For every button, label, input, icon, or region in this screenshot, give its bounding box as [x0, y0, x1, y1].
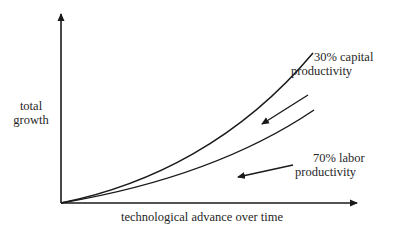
capital-label-line1: 30% capital	[291, 50, 373, 64]
labor-pointer-arrow	[238, 165, 293, 177]
labor-label-line2: productivity	[295, 165, 365, 179]
capital-productivity-label: 30% capital productivity	[291, 50, 373, 78]
labor-productivity-label: 70% labor productivity	[295, 151, 365, 179]
labor-label-line1: 70% labor	[295, 151, 365, 165]
x-axis-label: technological advance over time	[121, 210, 283, 224]
growth-diagram: total growth technological advance over …	[0, 0, 394, 238]
y-axis-label-line2: growth	[8, 113, 54, 127]
y-axis-label-line1: total	[8, 99, 54, 113]
y-axis-label: total growth	[8, 99, 54, 127]
diagram-canvas	[0, 0, 394, 238]
capital-productivity-curve	[61, 53, 313, 203]
capital-label-line2: productivity	[291, 64, 373, 78]
